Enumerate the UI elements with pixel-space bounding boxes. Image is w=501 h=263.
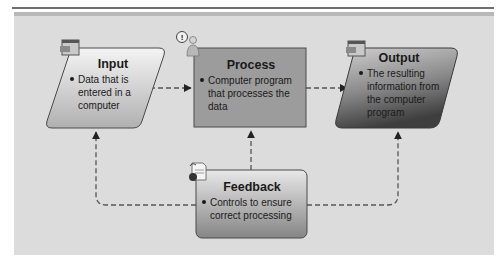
process-bullet: Computer program that processes the data <box>198 74 304 113</box>
feedback-title: Feedback <box>200 180 304 194</box>
input-title: Input <box>68 57 158 71</box>
svg-text:!: ! <box>181 33 184 42</box>
process-person-thinking-icon: ! <box>177 32 200 57</box>
input-description: Data that is entered in a computer <box>78 74 131 111</box>
process-title: Process <box>198 58 304 72</box>
input-bullet: Data that is entered in a computer <box>68 73 150 112</box>
bullet-dot <box>70 77 74 81</box>
bullet-dot <box>359 71 363 75</box>
output-description: The resulting information from the compu… <box>367 68 439 118</box>
process-description: Computer program that processes the data <box>208 75 292 112</box>
output-node: Output The resulting information from th… <box>353 51 449 119</box>
feedback-description: Controls to ensure correct processing <box>210 197 292 221</box>
output-bullet: The resulting information from the compu… <box>357 67 445 119</box>
feedback-document-info-icon <box>189 163 206 181</box>
edge-feedback-input <box>96 132 196 205</box>
input-node: Input Data that is entered in a computer <box>62 57 158 112</box>
input-window-icon <box>60 40 79 55</box>
bullet-dot <box>202 200 206 204</box>
feedback-node: Feedback Controls to ensure correct proc… <box>200 180 304 222</box>
process-node: Process Computer program that processes … <box>198 58 304 113</box>
flow-diagram: ! <box>0 0 501 263</box>
output-title: Output <box>349 51 449 65</box>
feedback-bullet: Controls to ensure correct processing <box>200 196 308 222</box>
edge-feedback-output <box>307 132 398 205</box>
bullet-dot <box>200 78 204 82</box>
